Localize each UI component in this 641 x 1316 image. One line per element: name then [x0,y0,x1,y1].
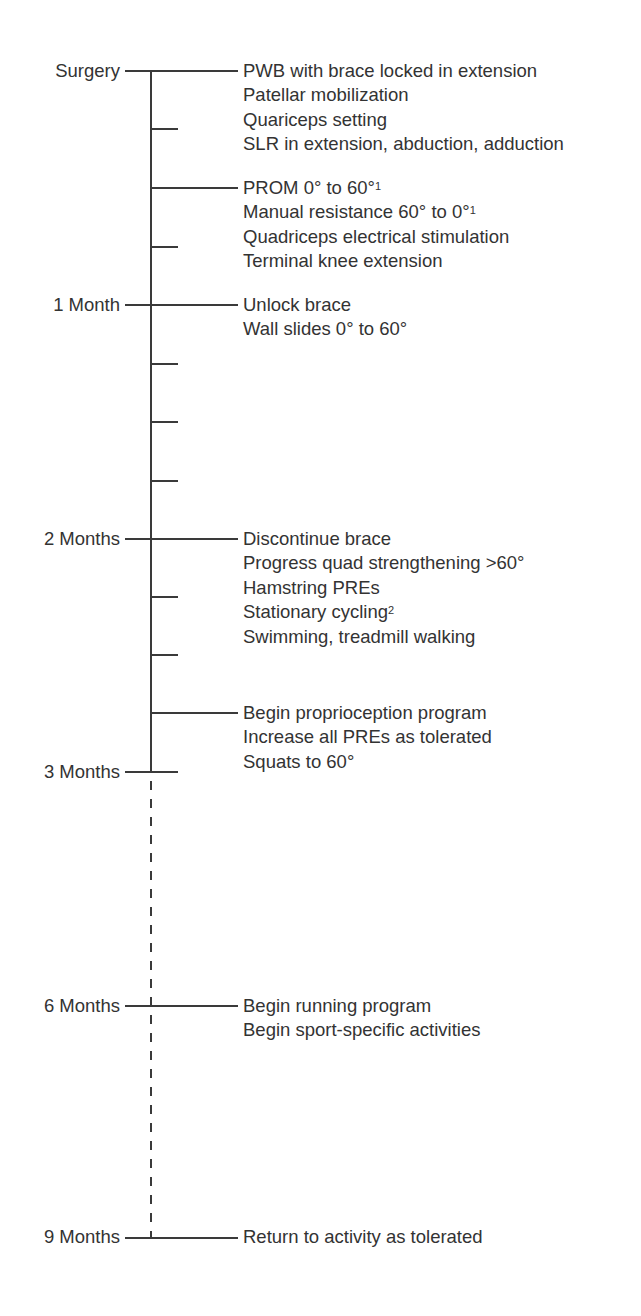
tick-short [151,596,178,598]
activity: Begin sport-specific activities [243,1018,481,1042]
milestone-line-surgery [125,70,238,72]
tick-short [151,128,178,130]
tick-short [151,654,178,656]
footnote-mark: 2 [388,604,394,616]
activity: Patellar mobilization [243,83,564,107]
activities-prom: PROM 0° to 60°1 Manual resistance 60° to… [243,176,509,274]
footnote-mark: 1 [470,204,476,216]
activities-surgery: PWB with brace locked in extension Patel… [243,59,564,157]
activity: Squats to 60° [243,750,492,774]
activity: Unlock brace [243,293,407,317]
activity: PROM 0° to 60° [243,177,375,198]
activities-proprioception: Begin proprioception program Increase al… [243,701,492,774]
tick-short [151,246,178,248]
tick-short [151,421,178,423]
tick-short [151,480,178,482]
activity: Quariceps setting [243,108,564,132]
tick-short [151,363,178,365]
activities-9-months: Return to activity as tolerated [243,1225,483,1249]
activity: Discontinue brace [243,527,525,551]
activity: Swimming, treadmill walking [243,625,525,649]
milestone-label-6-months: 6 Months [0,996,120,1016]
milestone-line-1-month [125,304,238,306]
activities-2-months: Discontinue brace Progress quad strength… [243,527,525,649]
milestone-line-2-months [125,538,238,540]
milestone-label-9-months: 9 Months [0,1227,120,1247]
activity: Begin proprioception program [243,701,492,725]
milestone-line-6-months [125,1005,238,1007]
activity: Increase all PREs as tolerated [243,725,492,749]
activity: PWB with brace locked in extension [243,59,564,83]
activity: Quadriceps electrical stimulation [243,225,509,249]
activities-6-months: Begin running program Begin sport-specif… [243,994,481,1043]
milestone-label-1-month: 1 Month [0,295,120,315]
milestone-line-proprioception [151,712,238,714]
activity: Hamstring PREs [243,576,525,600]
milestone-label-3-months: 3 Months [0,762,120,782]
milestone-label-2-months: 2 Months [0,529,120,549]
milestone-line-prom [151,187,238,189]
activity: Begin running program [243,994,481,1018]
activity: Return to activity as tolerated [243,1225,483,1249]
milestone-line-9-months [125,1237,238,1239]
timeline-axis-dashed [150,781,152,1239]
milestone-label-surgery: Surgery [0,61,120,81]
activity: Terminal knee extension [243,249,509,273]
activities-1-month: Unlock brace Wall slides 0° to 60° [243,293,407,342]
footnote-mark: 1 [375,180,381,192]
milestone-line-3-months [125,771,178,773]
activity: Stationary cycling [243,601,388,622]
activity: Progress quad strengthening >60° [243,551,525,575]
activity: Wall slides 0° to 60° [243,317,407,341]
activity: Manual resistance 60° to 0° [243,201,470,222]
activity: SLR in extension, abduction, adduction [243,132,564,156]
